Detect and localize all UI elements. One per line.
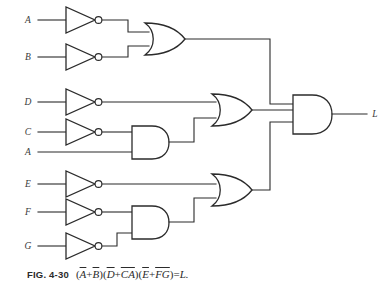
term-d-bar: D: [107, 268, 115, 280]
wire-and-ca-to-or: [169, 118, 216, 142]
inverter-g: [66, 233, 102, 259]
inverter-bubble-icon: [95, 99, 102, 106]
or-gate-body: [212, 94, 252, 126]
wire-a-inv-to-or: [102, 20, 149, 32]
wires-or-ab: [102, 20, 149, 57]
inverter-triangle: [66, 7, 95, 33]
figure-caption: FIG. 4-30(A+B)(D+CA)(E+FG)=L.: [27, 268, 189, 280]
port-label-c: C: [25, 127, 32, 137]
inverter-bubble-icon: [95, 129, 102, 136]
inverter-a-top: [66, 7, 102, 33]
port-label-output-l: L: [371, 109, 377, 119]
port-label-g: G: [25, 241, 32, 251]
inverter-e: [66, 171, 102, 197]
wire-b-inv-to-or: [102, 46, 149, 57]
port-label-d: D: [24, 97, 32, 107]
inverter-triangle: [66, 171, 95, 197]
result-l: L.: [180, 268, 189, 280]
wire-and-fg-to-or: [169, 198, 216, 222]
inverter-bubble-icon: [95, 181, 102, 188]
figure-4-30: A B D C A E F G L FIG. 4-30(A+B)(D+CA)(E…: [0, 0, 387, 291]
wire-or-ab-to-and: [185, 39, 296, 104]
and-gate-output: [293, 95, 367, 134]
or-gate-ab: [145, 23, 185, 55]
wires-and-fg: [102, 212, 132, 246]
or-gate-e-fg: [212, 174, 252, 206]
or-gate-body: [212, 174, 252, 206]
inverter-triangle: [66, 89, 95, 115]
logic-circuit-diagram: A B D C A E F G L: [0, 0, 387, 291]
inverter-f: [66, 199, 102, 225]
inverter-triangle: [66, 233, 95, 259]
inverter-bubble-icon: [95, 243, 102, 250]
inverter-bubble-icon: [95, 54, 102, 61]
inverter-triangle: [66, 119, 95, 145]
and-gate-ca: [132, 126, 169, 159]
and-gate-body: [132, 206, 169, 239]
term-fg-bar: FG: [155, 268, 170, 280]
port-label-a-top: A: [24, 15, 31, 25]
paren-close-open-1: )(: [99, 268, 106, 280]
inverter-d: [66, 89, 102, 115]
port-label-b: B: [25, 52, 31, 62]
inverter-c: [66, 119, 102, 145]
inverter-bubble-icon: [95, 209, 102, 216]
inverter-triangle: [66, 199, 95, 225]
port-label-a-second: A: [24, 147, 31, 157]
inverter-bubble-icon: [95, 17, 102, 24]
port-label-e: E: [24, 179, 31, 189]
or-gate-d-ca: [212, 94, 252, 126]
and-gate-fg: [132, 206, 169, 239]
boolean-expression: (A+B)(D+CA)(E+FG)=L.: [76, 268, 189, 280]
and-gate-body: [293, 95, 332, 134]
wire-or-efg-to-and: [252, 122, 296, 190]
wire-g-inv-to-and: [102, 233, 132, 246]
port-label-f: F: [24, 207, 31, 217]
or-gate-body: [145, 23, 185, 55]
inverter-triangle: [66, 44, 95, 70]
term-e-bar: E: [142, 268, 149, 280]
figure-number-label: FIG. 4-30: [27, 269, 69, 280]
and-gate-body: [132, 126, 169, 159]
inverter-b: [66, 44, 102, 70]
term-ca-bar: CA: [121, 268, 135, 280]
